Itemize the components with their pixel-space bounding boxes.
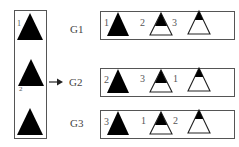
g3-item-3-label: 2 xyxy=(173,116,178,126)
g2-triangle-top xyxy=(188,68,210,92)
g1-item-2-label: 2 xyxy=(140,18,145,28)
g1-triangle-half xyxy=(150,13,172,36)
g2-triangle-full xyxy=(107,69,129,93)
g1-triangle-top xyxy=(188,11,210,35)
left-triangle-2 xyxy=(18,59,44,87)
g1-item-3-label: 3 xyxy=(172,18,177,28)
group-label-g1: G1 xyxy=(70,24,83,35)
arrow-right-icon xyxy=(49,78,63,86)
left-triangle-3 xyxy=(17,108,43,136)
g3-triangle-full xyxy=(107,111,129,135)
g3-triangle-top xyxy=(188,110,210,134)
group-label-g2: G2 xyxy=(69,77,82,88)
group-label-g3: G3 xyxy=(70,118,83,129)
g2-triangle-half xyxy=(150,70,172,93)
left-triangle-1-label: 1 xyxy=(17,20,21,28)
left-triangle-2-label: 2 xyxy=(19,86,23,93)
g1-triangle-full xyxy=(107,12,129,36)
g2-item-2-label: 3 xyxy=(140,74,145,84)
g3-item-2-label: 1 xyxy=(141,116,146,126)
g3-triangle-half xyxy=(150,112,172,135)
g2-item-3-label: 1 xyxy=(173,74,178,84)
